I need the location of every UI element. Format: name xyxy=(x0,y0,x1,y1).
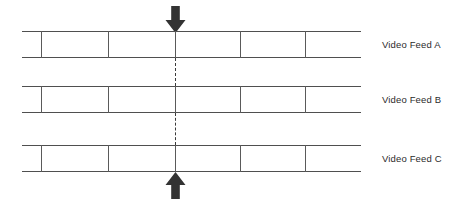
frame-divider xyxy=(305,145,306,172)
feed-label-c: Video Feed C xyxy=(382,154,442,164)
frame-divider xyxy=(108,145,109,172)
frame-divider xyxy=(240,145,241,172)
timeline-band-c xyxy=(22,145,361,172)
feed-row-c: Video Feed C xyxy=(0,0,472,206)
frame-divider xyxy=(41,145,42,172)
frame-divider xyxy=(175,145,176,172)
band-bottom-line-c xyxy=(22,171,361,172)
sync-arrow-up-icon xyxy=(164,172,187,199)
video-feed-sync-diagram: Video Feed A Video Feed B Video Feed C xyxy=(0,0,472,206)
band-top-line-c xyxy=(22,145,361,146)
